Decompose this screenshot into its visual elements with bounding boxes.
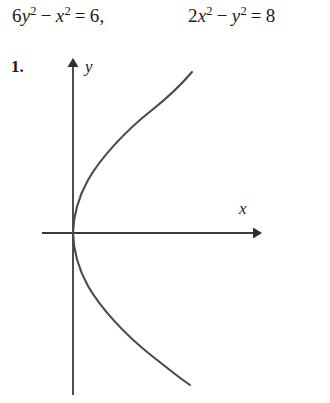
- equation-1-coefficient: 6: [12, 5, 22, 26]
- worksheet-page: 6y2−x2=6, 2x2−y2=8 1. y x: [0, 0, 330, 403]
- equation-1-right-hand-side: 6: [90, 5, 100, 26]
- equation-1-operator: −: [37, 5, 56, 26]
- equation-1-equals-sign: =: [71, 5, 90, 26]
- equation-1: 6y2−x2=6,: [12, 6, 104, 25]
- x-axis-arrowhead: [253, 228, 262, 239]
- equation-1-trailing-comma: ,: [99, 5, 104, 26]
- equation-row: 6y2−x2=6, 2x2−y2=8: [0, 0, 330, 40]
- equation-2-coefficient: 2: [188, 5, 198, 26]
- equation-1-exponent-x: 2: [64, 4, 70, 18]
- equation-2-equals-sign: =: [247, 5, 266, 26]
- equation-2-operator: −: [213, 5, 232, 26]
- x-axis-label: x: [238, 199, 247, 218]
- equation-2: 2x2−y2=8: [188, 6, 275, 25]
- equation-2-right-hand-side: 8: [266, 5, 276, 26]
- curve-lower-branch: [73, 233, 190, 385]
- curve-upper-branch: [73, 72, 192, 233]
- graph-figure: y x: [0, 40, 330, 403]
- y-axis-label: y: [83, 57, 93, 76]
- y-axis-arrowhead: [68, 58, 79, 67]
- equation-2-exponent-y: 2: [240, 4, 246, 18]
- equation-2-exponent-x: 2: [206, 4, 212, 18]
- equation-1-exponent-y: 2: [30, 4, 36, 18]
